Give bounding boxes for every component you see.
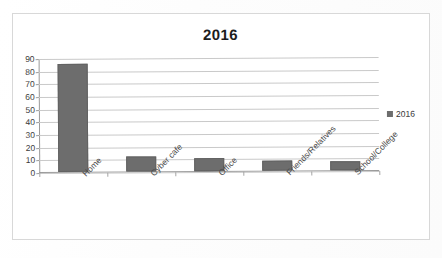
- y-axis-line: [39, 59, 41, 173]
- gridline: [39, 70, 379, 73]
- y-tick-mark: [36, 160, 39, 161]
- x-axis-separator-tick: [311, 171, 312, 175]
- y-tick-mark: [36, 72, 39, 73]
- y-tick-label: 80: [25, 68, 35, 77]
- x-axis-separator-tick: [107, 173, 108, 177]
- gridlines: [39, 57, 379, 59]
- y-tick-label: 30: [26, 131, 36, 140]
- chart-title: 2016: [12, 25, 428, 45]
- legend-entry-label: 2016: [396, 110, 415, 119]
- chart-legend: 2016: [387, 110, 415, 119]
- y-tick-mark: [36, 110, 39, 111]
- bar: [58, 64, 89, 172]
- y-tick-mark: [36, 97, 39, 98]
- gridline: [39, 108, 379, 111]
- gridline: [39, 120, 379, 123]
- bar-chart: 2016 9080706050403020100 HomeCyber cafeO…: [12, 13, 429, 241]
- plot-area: 9080706050403020100 HomeCyber cafeOffice…: [39, 57, 380, 173]
- gridline: [39, 82, 379, 85]
- y-tick-label: 20: [26, 144, 36, 153]
- y-tick-label: 0: [31, 169, 36, 178]
- legend-swatch-icon: [387, 111, 393, 117]
- y-tick-mark: [36, 122, 39, 123]
- x-axis-separator-tick: [243, 172, 244, 176]
- y-tick-label: 90: [25, 55, 35, 64]
- y-tick-mark: [36, 59, 39, 60]
- x-axis-separator-tick: [39, 173, 40, 177]
- y-tick-label: 50: [25, 106, 35, 115]
- gridline: [39, 95, 379, 98]
- x-axis-separator-tick: [379, 171, 380, 175]
- y-tick-mark: [36, 84, 39, 85]
- y-tick-mark: [36, 148, 39, 149]
- y-tick-label: 60: [25, 93, 35, 102]
- y-tick-label: 70: [25, 80, 35, 89]
- y-tick-mark: [36, 135, 39, 136]
- y-tick-label: 10: [26, 156, 36, 165]
- gridline: [39, 146, 379, 149]
- y-tick-label: 40: [25, 118, 35, 127]
- chart-frame: 2016 9080706050403020100 HomeCyber cafeO…: [12, 13, 430, 240]
- gridline: [39, 57, 379, 60]
- x-axis-separator-tick: [175, 172, 176, 176]
- page-background: 2016 9080706050403020100 HomeCyber cafeO…: [0, 0, 442, 258]
